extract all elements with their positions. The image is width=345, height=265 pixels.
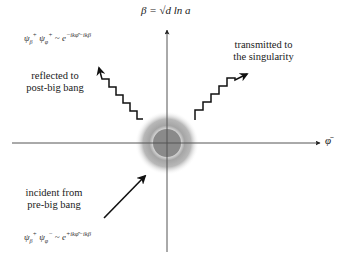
transmitted-wave-arrow bbox=[195, 74, 247, 120]
reflected-label-line1: reflected to bbox=[20, 70, 90, 82]
incident-label-line1: incident from bbox=[18, 187, 90, 199]
transmitted-label: transmitted to the singularity bbox=[221, 39, 306, 63]
y-axis-label: β = √d ln a bbox=[141, 4, 191, 16]
reflected-label: reflected to post-big bang bbox=[20, 70, 90, 94]
transmitted-label-line1: transmitted to bbox=[221, 39, 306, 51]
incident-label-line2: pre-big bang bbox=[18, 199, 90, 211]
incident-label: incident from pre-big bang bbox=[18, 187, 90, 211]
reflected-formula: ψβ+ ψφ+ ~ e−ikφ̄−ikβ bbox=[24, 31, 91, 45]
reflected-label-line2: post-big bang bbox=[20, 82, 90, 94]
x-axis-label: φ̄ bbox=[325, 134, 331, 146]
reflected-wave-arrow bbox=[99, 68, 143, 119]
incident-formula: ψβ+ ψφ− ~ e+ikφ̄−ikβ bbox=[24, 230, 91, 244]
incident-arrow bbox=[104, 176, 145, 218]
transmitted-label-line2: the singularity bbox=[221, 51, 306, 63]
